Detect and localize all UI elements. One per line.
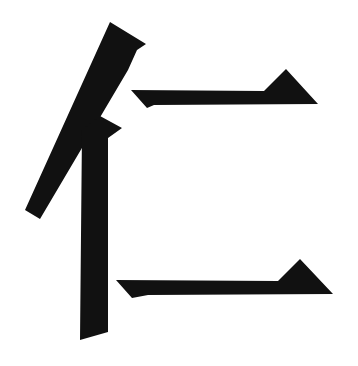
stroke-upper-horizontal: [131, 69, 318, 108]
stroke-lower-horizontal: [116, 259, 333, 298]
character-glyph: [0, 0, 358, 366]
stroke-vertical: [80, 116, 122, 340]
